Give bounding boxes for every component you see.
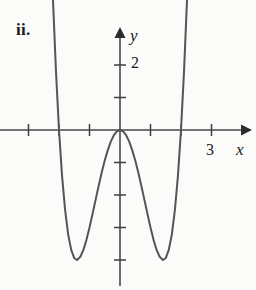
x-axis-label: x bbox=[236, 141, 244, 158]
plot-area bbox=[0, 0, 256, 290]
y-tick-label-2: 2 bbox=[131, 55, 139, 71]
graph-figure: ii. y x 2 3 bbox=[0, 0, 256, 290]
x-axis-arrow-icon bbox=[241, 125, 252, 136]
y-axis-arrow-icon bbox=[115, 27, 126, 38]
y-axis-label: y bbox=[130, 27, 138, 44]
x-tick-label-3: 3 bbox=[206, 142, 214, 158]
part-label: ii. bbox=[16, 21, 31, 38]
